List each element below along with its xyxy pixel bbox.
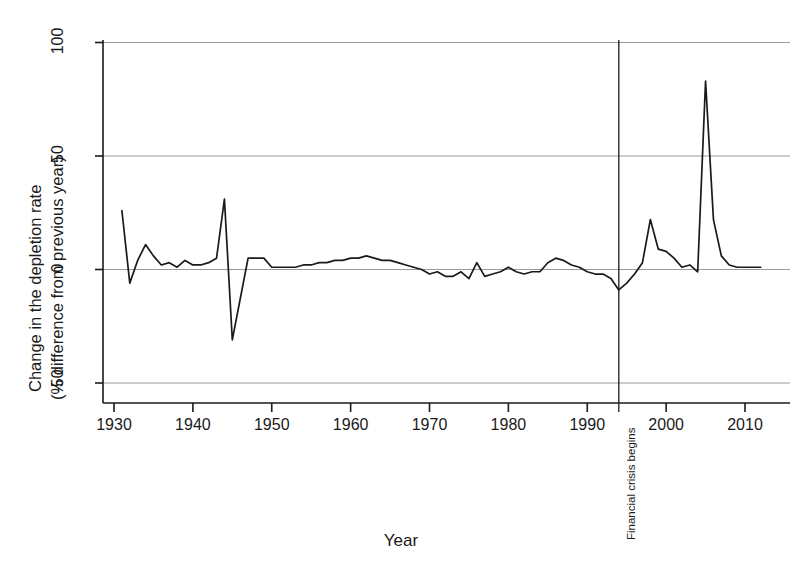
x-axis-ticks — [114, 403, 745, 412]
y-axis-ticks — [95, 43, 103, 384]
data-series-line — [122, 81, 761, 340]
plot-area — [0, 0, 802, 582]
gridlines — [103, 43, 790, 384]
axes — [103, 40, 790, 403]
chart-figure: Change in the depletion rate (% differen… — [0, 0, 802, 582]
